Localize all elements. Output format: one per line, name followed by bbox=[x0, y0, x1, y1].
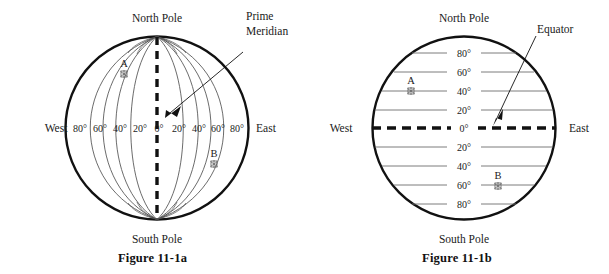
equator-callout-line1: Equator bbox=[537, 23, 574, 36]
longitude-label-20w: 20° bbox=[133, 123, 147, 134]
west-label: West bbox=[45, 122, 69, 134]
longitude-label-0: 0° bbox=[155, 123, 164, 134]
point-a-label: A bbox=[120, 58, 128, 69]
latitude-globe-diagram: A B North Pole Sout bbox=[305, 0, 609, 250]
figure-b-caption: Figure 11-1b bbox=[305, 251, 609, 266]
latitude-label-60n: 60° bbox=[457, 67, 471, 78]
point-a-label: A bbox=[407, 75, 415, 86]
longitude-label-40w: 40° bbox=[113, 123, 127, 134]
prime-meridian-callout-line1: Prime bbox=[246, 10, 273, 22]
point-b-label: B bbox=[210, 148, 217, 159]
prime-meridian-arrowhead bbox=[165, 106, 181, 118]
latitude-label-40n: 40° bbox=[457, 86, 471, 97]
latitude-label-20s: 20° bbox=[457, 142, 471, 153]
longitude-label-60w: 60° bbox=[93, 123, 107, 134]
equator-arrowhead bbox=[493, 109, 503, 126]
latitude-label-0: 0° bbox=[460, 123, 469, 134]
latitude-label-20n: 20° bbox=[457, 105, 471, 116]
point-a-marker: A bbox=[120, 58, 128, 78]
latitude-label-80n: 80° bbox=[457, 48, 471, 59]
latitude-labels: 80° 60° 40° 20° 0° 20° 40° 60° 80° bbox=[447, 45, 481, 211]
equator-leader-line bbox=[497, 36, 536, 118]
east-label: East bbox=[569, 122, 590, 134]
figure-11-1b: A B North Pole Sout bbox=[305, 0, 609, 274]
meridian-60w bbox=[103, 37, 157, 220]
longitude-label-80w: 80° bbox=[73, 123, 87, 134]
longitude-label-80e: 80° bbox=[230, 123, 244, 134]
figure-11-1a: A B North Pole Sout bbox=[0, 0, 305, 274]
point-b-label: B bbox=[494, 170, 501, 181]
north-pole-label: North Pole bbox=[439, 12, 489, 24]
north-pole-label: North Pole bbox=[132, 12, 182, 24]
west-label: West bbox=[330, 122, 354, 134]
figure-a-caption: Figure 11-1a bbox=[0, 251, 305, 266]
latitude-label-40s: 40° bbox=[457, 161, 471, 172]
prime-meridian-callout-line2: Meridian bbox=[246, 25, 288, 37]
south-pole-label: South Pole bbox=[439, 233, 489, 245]
longitude-label-60e: 60° bbox=[211, 123, 225, 134]
longitude-label-20e: 20° bbox=[172, 123, 186, 134]
latitude-label-80s: 80° bbox=[457, 199, 471, 210]
longitude-globe-diagram: A B North Pole Sout bbox=[0, 0, 305, 250]
star-marker bbox=[495, 182, 502, 190]
figure-page: A B North Pole Sout bbox=[0, 0, 609, 274]
point-a-marker: A bbox=[407, 75, 415, 95]
south-pole-label: South Pole bbox=[132, 233, 182, 245]
point-b-marker: B bbox=[494, 170, 501, 190]
latitude-label-60s: 60° bbox=[457, 180, 471, 191]
longitude-label-40e: 40° bbox=[192, 123, 206, 134]
east-label: East bbox=[256, 122, 277, 134]
